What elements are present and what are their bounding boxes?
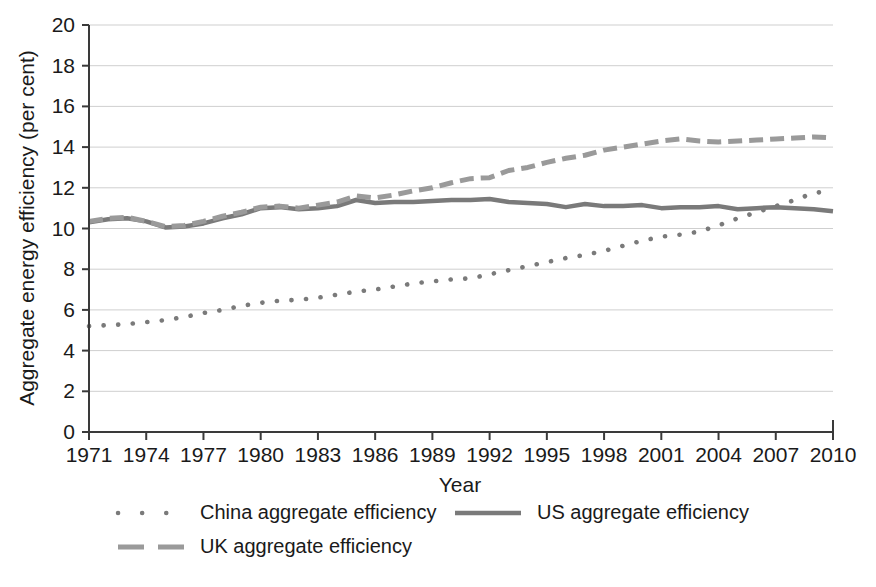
y-axis-tick-label: 2: [63, 379, 75, 402]
y-axis-tick-label: 0: [63, 420, 75, 443]
y-axis-tick-label: 10: [52, 217, 75, 240]
x-axis-tick-label: 1995: [523, 443, 570, 466]
x-axis-tick-label: 1980: [237, 443, 284, 466]
x-axis-tick-label: 1992: [466, 443, 513, 466]
x-axis-tick-label: 1971: [66, 443, 113, 466]
x-axis-tick-label: 2007: [752, 443, 799, 466]
y-axis-tick-label: 14: [52, 135, 76, 158]
x-axis-title: Year: [439, 473, 481, 496]
y-axis-tick-label: 12: [52, 176, 75, 199]
legend-label: US aggregate efficiency: [537, 501, 749, 523]
chart-background: [0, 0, 876, 587]
y-axis-tick-label: 16: [52, 94, 75, 117]
x-axis-tick-label: 1974: [123, 443, 170, 466]
x-axis-tick-label: 2001: [638, 443, 685, 466]
y-axis-title: Aggregate energy efficiency (per cent): [15, 50, 38, 406]
legend-label: China aggregate efficiency: [200, 501, 436, 523]
x-axis-tick-label: 1998: [581, 443, 628, 466]
x-axis-tick-label: 2004: [695, 443, 742, 466]
x-axis-tick-label: 1986: [352, 443, 399, 466]
legend-label: UK aggregate efficiency: [200, 535, 412, 557]
x-axis-tick-label: 2010: [810, 443, 857, 466]
y-axis-tick-label: 6: [63, 298, 75, 321]
x-axis-tick-label: 1977: [180, 443, 227, 466]
chart-figure: 02468101214161820 1971197419771980198319…: [0, 0, 876, 587]
y-axis-tick-label: 18: [52, 54, 75, 77]
y-axis-tick-label: 4: [63, 339, 75, 362]
energy-efficiency-line-chart: 02468101214161820 1971197419771980198319…: [0, 0, 876, 587]
y-axis-tick-label: 20: [52, 13, 75, 36]
x-axis-tick-label: 1983: [295, 443, 342, 466]
x-axis-tick-label: 1989: [409, 443, 456, 466]
y-axis-tick-label: 8: [63, 257, 75, 280]
